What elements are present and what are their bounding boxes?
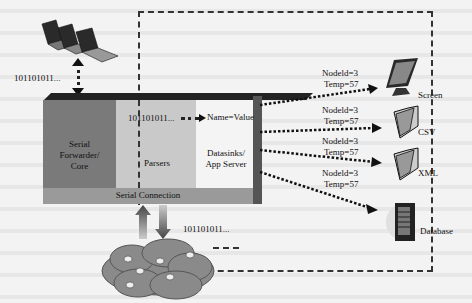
parser-input-bits: 101101011... — [128, 113, 175, 124]
screen-label-nodeid: Nodeld=3 — [322, 68, 358, 79]
parsers-label: Parsers — [144, 158, 170, 169]
csv-label-temp: Temp=57 — [324, 116, 358, 127]
serial-connection-label: Serial Connection — [43, 190, 253, 201]
monitor-icon — [384, 58, 420, 100]
parser-arrow-line — [181, 117, 199, 120]
boundary-dashed-inner — [138, 100, 140, 188]
db-label-temp: Temp=57 — [324, 179, 358, 190]
server-icon — [394, 202, 416, 242]
boundary-dashed-left-top — [138, 11, 140, 101]
serial-forwarder-label-3: Core — [43, 161, 116, 172]
xml-label-temp: Temp=57 — [324, 147, 358, 158]
serial-connection-bar: Serial Connection — [43, 188, 253, 204]
cloud-network-icon — [98, 237, 218, 303]
arrow-up-icon — [72, 58, 84, 66]
screen-label-temp: Temp=57 — [324, 79, 358, 90]
csv-name: CSV — [418, 127, 436, 138]
network-bits-label: 101101011... — [183, 224, 230, 235]
parsers-block: 101101011... Parsers — [116, 100, 196, 188]
serial-forwarder-label-1: Serial — [43, 139, 116, 150]
parser-output-label: Name=Value — [207, 112, 254, 123]
output-arrows — [258, 80, 383, 220]
clients-link-line — [77, 63, 80, 91]
network-boundary-dash — [213, 247, 239, 249]
database-name: Database — [420, 226, 453, 237]
clients-bits-label: 101101011... — [14, 73, 61, 84]
serial-forwarder-label-2: Forwarder/ — [43, 150, 116, 161]
bidirectional-arrows-icon — [135, 205, 175, 239]
csv-label-nodeid: Nodeld=3 — [322, 105, 358, 116]
serial-forwarder-block: Serial Forwarder/ Core — [43, 100, 116, 188]
xml-name: XML — [418, 168, 438, 179]
xml-label-nodeid: Nodeld=3 — [322, 136, 358, 147]
datasinks-label-1: Datasinks/ — [196, 148, 256, 159]
screen-name: Screen — [418, 90, 443, 101]
arrow-right-icon — [199, 114, 206, 122]
datasinks-label-2: App Server — [196, 159, 256, 170]
db-label-nodeid: Nodeld=3 — [322, 168, 358, 179]
